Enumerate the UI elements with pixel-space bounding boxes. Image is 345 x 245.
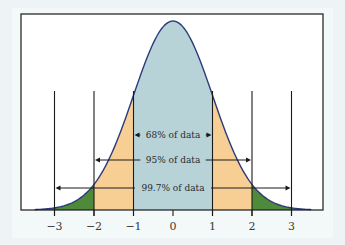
x-tick-label: 3: [288, 220, 295, 233]
chart-stage: 68% of data95% of data99.7% of data −3−2…: [0, 0, 345, 245]
x-tick-label: −2: [86, 220, 102, 233]
normal-distribution-chart: 68% of data95% of data99.7% of data −3−2…: [0, 0, 345, 245]
x-tick-label: 1: [209, 220, 216, 233]
x-tick-label: 0: [170, 220, 177, 233]
annotation-68: 68% of data: [135, 130, 212, 140]
annotation-label: 99.7% of data: [141, 183, 205, 193]
x-tick-label: −3: [46, 220, 62, 233]
x-tick-label: −1: [125, 220, 141, 233]
annotation-label: 95% of data: [146, 155, 201, 165]
x-tick-label: 2: [249, 220, 256, 233]
annotation-label: 68% of data: [146, 130, 201, 140]
